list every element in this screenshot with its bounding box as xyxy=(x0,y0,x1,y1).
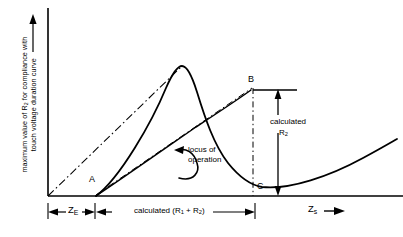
calculated-r2-label: calculated R2 xyxy=(270,117,306,138)
y-axis-label-line2: touch voltage duration curve xyxy=(30,7,38,203)
ze-dimension-label: ZE xyxy=(68,205,78,216)
point-label-b: B xyxy=(248,74,254,84)
point-label-a: A xyxy=(89,174,95,184)
locus-label-line1: locus of xyxy=(188,145,221,155)
y-axis-label-line1: maximum value of R2 for compliance with xyxy=(20,37,29,173)
axis-group xyxy=(48,8,403,196)
diagram-canvas xyxy=(0,0,403,237)
x-axis-label: Zs xyxy=(308,204,317,215)
locus-of-operation-line xyxy=(96,90,251,196)
r1-plus-r2-dimension-label: calculated (R1 + R2) xyxy=(134,206,205,216)
locus-label-line2: operation xyxy=(188,155,221,165)
y-axis-label: maximum value of R2 for compliance with … xyxy=(21,7,38,203)
calculated-r2-label-line1: calculated xyxy=(270,117,306,126)
calculated-r2-label-line2: R2 xyxy=(279,128,306,138)
main-response-curve xyxy=(96,66,397,196)
zs-direction-arrow-icon xyxy=(324,207,345,215)
point-label-c: C xyxy=(257,181,264,191)
locus-of-operation-label: locus of operation xyxy=(188,145,221,165)
earth-fault-loop-impedance-diagram: maximum value of R2 for compliance with … xyxy=(0,0,403,237)
calculated-r2-dimension-arrow xyxy=(275,89,282,196)
